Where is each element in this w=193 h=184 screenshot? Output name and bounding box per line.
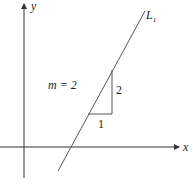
run-label: 1: [98, 118, 104, 130]
line-label-main: L: [146, 8, 153, 22]
slope-triangle: [88, 70, 112, 114]
rise-label: 2: [116, 84, 122, 96]
slope-text: m = 2: [48, 79, 77, 91]
diagram-canvas: [0, 0, 193, 184]
x-axis-label: x: [183, 141, 188, 153]
line-label: L1: [146, 9, 156, 26]
line-label-subscript: 1: [153, 16, 157, 24]
y-axis-label: y: [31, 0, 36, 12]
